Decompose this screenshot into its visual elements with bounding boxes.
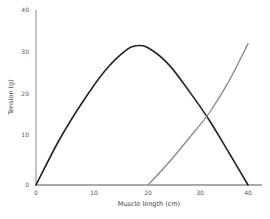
x-tick-label: 10 <box>90 189 98 196</box>
y-tick-label: 30 <box>21 48 29 55</box>
x-axis-label: Muscle length (cm) <box>118 200 180 208</box>
x-tick-label: 30 <box>196 189 204 196</box>
y-tick-label: 40 <box>21 6 29 13</box>
y-tick-label: 10 <box>21 131 29 138</box>
passive-tension-line <box>148 44 248 185</box>
tension-length-chart: 010203040 010203040 Tension (g) Muscle l… <box>0 0 270 219</box>
y-tick-label: 0 <box>25 181 29 188</box>
x-tick-label: 0 <box>34 189 38 196</box>
active-tension-line <box>36 45 248 185</box>
series-group <box>36 44 248 185</box>
x-tick-label: 40 <box>244 189 252 196</box>
y-axis-label: Tension (g) <box>7 79 15 116</box>
axes <box>36 10 262 185</box>
x-tick-label: 20 <box>144 189 152 196</box>
y-tick-labels: 010203040 <box>21 6 29 188</box>
x-tick-labels: 010203040 <box>34 189 252 196</box>
y-tick-label: 20 <box>21 90 29 97</box>
